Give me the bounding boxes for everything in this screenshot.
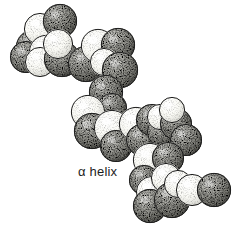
- atom-sphere: [159, 97, 185, 123]
- atom-sphere: [197, 173, 231, 207]
- alpha-helix-molecule-illustration: [0, 0, 233, 239]
- atom-sphere: [43, 29, 73, 59]
- figure-root: α helix: [0, 0, 233, 239]
